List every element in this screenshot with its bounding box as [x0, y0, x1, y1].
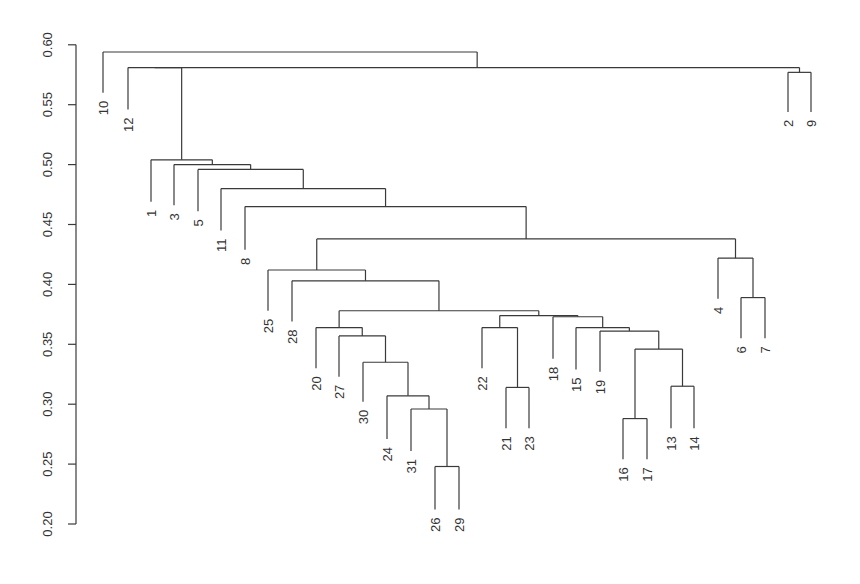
leaf-label: 21: [499, 436, 514, 450]
leaf-label: 12: [121, 117, 136, 131]
leaf-label: 22: [475, 376, 490, 390]
leaf-label: 28: [285, 330, 300, 344]
leaf-label: 16: [616, 467, 631, 481]
y-tick-label: 0.30: [40, 392, 55, 417]
y-tick-label: 0.35: [40, 332, 55, 357]
dendrogram-chart: 0.200.250.300.350.400.450.500.550.60 101…: [0, 0, 860, 584]
y-tick-label: 0.40: [40, 272, 55, 297]
leaf-label: 25: [261, 319, 276, 333]
leaf-label: 19: [593, 380, 608, 394]
y-tick-label: 0.25: [40, 451, 55, 476]
leaf-label: 10: [96, 101, 111, 115]
leaf-label: 23: [522, 436, 537, 450]
leaf-label: 2: [781, 120, 796, 127]
leaf-label: 14: [687, 436, 702, 450]
leaf-labels: 1012135118252820273024312629222123181519…: [96, 101, 819, 532]
y-axis: 0.200.250.300.350.400.450.500.550.60: [40, 32, 76, 537]
leaf-label: 3: [167, 213, 182, 220]
y-tick-label: 0.55: [40, 92, 55, 117]
y-tick-label: 0.45: [40, 212, 55, 237]
leaf-label: 13: [664, 436, 679, 450]
leaf-label: 24: [380, 447, 395, 461]
leaf-label: 7: [758, 346, 773, 353]
leaf-label: 27: [332, 385, 347, 399]
leaf-label: 4: [711, 307, 726, 314]
leaf-label: 30: [356, 410, 371, 424]
y-tick-label: 0.20: [40, 511, 55, 536]
leaf-label: 18: [546, 367, 561, 381]
leaf-label: 29: [452, 518, 467, 532]
y-tick-label: 0.60: [40, 32, 55, 57]
leaf-label: 26: [428, 518, 443, 532]
leaf-label: 1: [144, 210, 159, 217]
leaf-label: 9: [804, 120, 819, 127]
leaf-label: 6: [734, 346, 749, 353]
leaf-label: 11: [214, 238, 229, 252]
leaf-label: 5: [191, 219, 206, 226]
leaf-label: 8: [238, 258, 253, 265]
y-tick-label: 0.50: [40, 152, 55, 177]
leaf-label: 31: [404, 459, 419, 473]
leaf-label: 15: [569, 377, 584, 391]
leaf-label: 20: [309, 376, 324, 390]
leaf-label: 17: [640, 467, 655, 481]
dendrogram-tree: [103, 52, 811, 510]
